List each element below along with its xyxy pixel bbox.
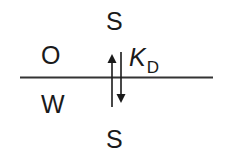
- water-phase-label: W: [41, 92, 65, 117]
- coefficient-subscript: D: [147, 58, 159, 77]
- organic-phase-label: O: [41, 43, 60, 68]
- solute-label-bottom: S: [106, 127, 123, 152]
- partition-coefficient-label: KD: [129, 45, 159, 71]
- solute-label-top: S: [106, 9, 123, 34]
- partition-diagram: S O W S KD: [0, 0, 233, 161]
- arrow-up-icon: [108, 54, 117, 107]
- coefficient-symbol: K: [129, 43, 146, 71]
